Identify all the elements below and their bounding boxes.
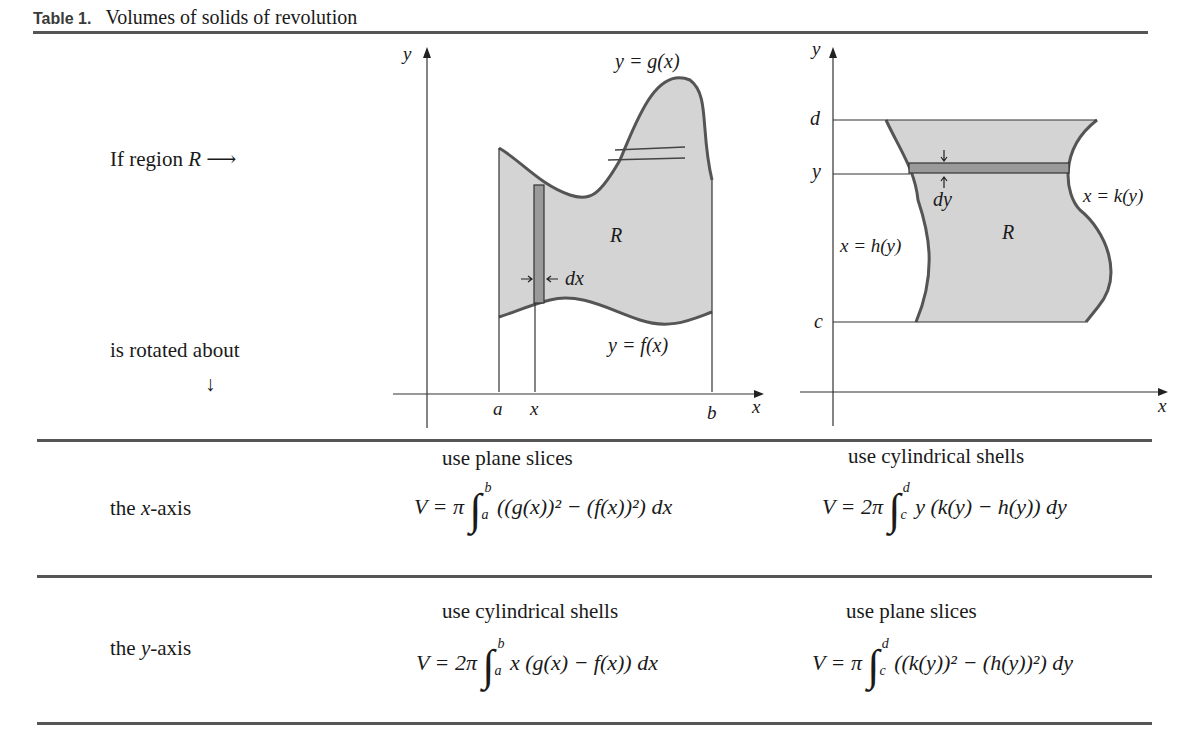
upper-limit: b [484,480,491,495]
row-y-col2-formula: V = π ∫cd ((k(y))² − (h(y))²) dy [812,636,1073,691]
row-x-col1-formula: V = π ∫ab ((g(x))² − (f(x))²) dx [414,480,672,535]
y-axis-arrow-icon [423,47,431,58]
right-arrow-icon: ⟶ [206,147,236,171]
y-axis-label: y [810,38,821,59]
axis-var: y [141,636,150,660]
table-caption: Table 1.Volumes of solids of revolution [33,6,357,29]
lower-curve-label: y = f(x) [606,334,668,357]
figure-x-region: y x y = g(x) y = f(x) R dx a x b [390,30,790,430]
row-x-col1-method: use plane slices [442,446,573,471]
y-axis-arrow-icon [829,47,837,58]
integral-sign: ∫ [867,641,879,690]
axis-prefix: the [110,636,141,660]
if-region-label: If region R ⟶ [110,147,236,172]
lower-limit: a [481,507,488,522]
left-curve-label: x = h(y) [839,235,901,257]
formula-lhs: V = π [812,650,862,675]
lower-limit: c [879,663,885,678]
integral-sign: ∫ [888,485,900,534]
right-curve-label: x = k(y) [1082,185,1143,207]
axis-suffix: -axis [150,496,191,520]
formula-lhs: V = 2π [416,650,477,675]
horizontal-strip [909,163,1069,173]
axis-prefix: the [110,496,141,520]
formula-lhs: V = π [414,494,464,519]
bottom-rule [37,722,1152,725]
upper-limit: d [882,636,889,651]
region-label: R [609,224,622,246]
tick-d: d [810,107,821,129]
x-axis-label: x [1157,395,1167,416]
is-rotated-about-label: is rotated about [110,338,239,363]
row-y-col2-method: use plane slices [846,599,977,624]
integrand: ((g(x))² − (f(x))²) dx [497,494,672,519]
row-y-col1-method: use cylindrical shells [442,599,618,624]
axis-suffix: -axis [150,636,191,660]
dy-label: dy [933,188,952,211]
integrand: x (g(x) − f(x)) dx [510,650,658,675]
tick-y: y [810,160,821,183]
upper-curve-label: y = g(x) [613,50,680,73]
rule-after-x-axis-row [37,575,1152,578]
integrand: ((k(y))² − (h(y))²) dy [894,650,1073,675]
row-x-col2-method: use cylindrical shells [848,444,1024,469]
region-fill [499,78,712,325]
upper-limit: d [903,480,910,495]
table-number: Table 1. [33,10,91,27]
lower-limit: a [494,663,501,678]
dx-label: dx [565,267,584,289]
vertical-strip [534,185,544,303]
region-symbol: R [188,147,201,171]
tick-b: b [707,402,717,423]
y-axis-label: y [401,43,412,64]
region-fill [886,120,1111,322]
table-title: Volumes of solids of revolution [105,6,357,28]
row-x-col2-formula: V = 2π ∫cd y (k(y) − h(y)) dy [822,480,1067,535]
x-axis-label: x [751,396,761,417]
lower-limit: c [900,507,906,522]
figure-y-region: y x d y c x = h(y) x = k(y) R dy [790,30,1197,430]
row-y-col1-formula: V = 2π ∫ab x (g(x) − f(x)) dx [416,636,658,691]
region-label: R [1001,221,1014,243]
row-x-axis-label: the x-axis [110,496,191,521]
upper-limit: b [497,636,504,651]
formula-lhs: V = 2π [822,494,883,519]
tick-a: a [493,398,503,419]
tick-x: x [529,398,539,419]
down-arrow-icon: ↓ [205,372,216,397]
integral-sign: ∫ [482,641,494,690]
integral-sign: ∫ [469,485,481,534]
rule-after-figures [37,439,1152,442]
tick-c: c [814,310,823,332]
row-y-axis-label: the y-axis [110,636,191,661]
integrand: y (k(y) − h(y)) dy [915,494,1067,519]
if-region-text: If region [110,147,183,171]
axis-var: x [141,496,150,520]
